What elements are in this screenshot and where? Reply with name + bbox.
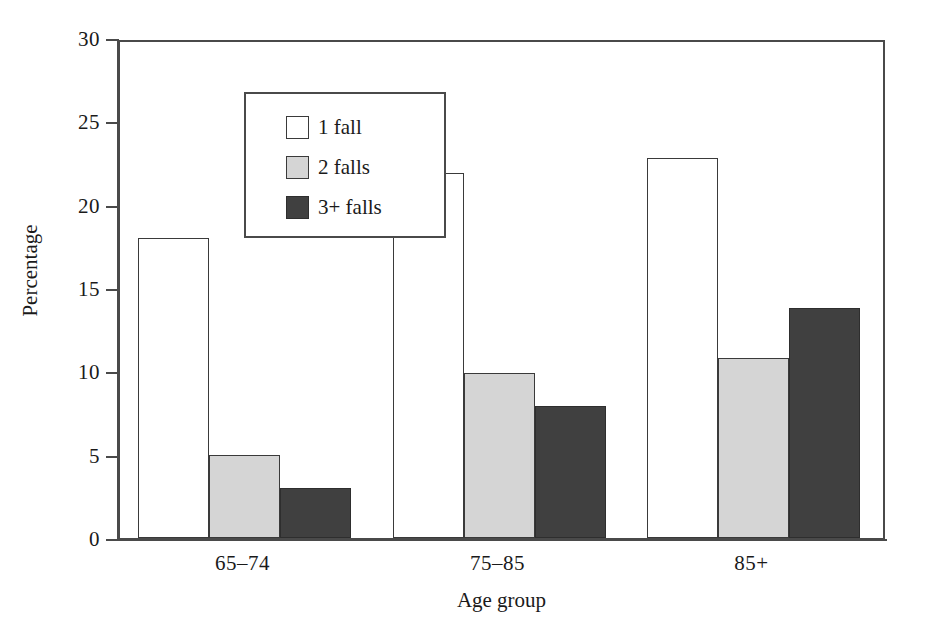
bar-7585-3+falls bbox=[535, 406, 606, 538]
y-axis-tick-label: 10 bbox=[34, 362, 100, 383]
x-axis-label-6574: 65–74 bbox=[163, 551, 323, 576]
legend-swatch-icon-3-plus-falls bbox=[286, 196, 309, 219]
y-axis-tick-label: 0 bbox=[34, 529, 100, 550]
y-axis-line bbox=[117, 39, 119, 541]
legend-item-2-falls: 2 falls bbox=[246, 147, 444, 187]
bars-layer bbox=[120, 42, 883, 538]
y-axis-tick-label: 30 bbox=[34, 29, 100, 50]
legend-item-3-plus-falls: 3+ falls bbox=[246, 187, 444, 227]
y-axis-title: Percentage bbox=[18, 201, 43, 341]
bar-6574-3+falls bbox=[280, 488, 351, 538]
y-axis-tick-label: 5 bbox=[34, 446, 100, 467]
plot-area: 1 fall 2 falls 3+ falls bbox=[118, 40, 885, 540]
legend-item-1-fall: 1 fall bbox=[246, 107, 444, 147]
x-axis-title: Age group bbox=[118, 588, 885, 613]
legend-swatch-icon-2-falls bbox=[286, 156, 309, 179]
legend-label-3-plus-falls: 3+ falls bbox=[318, 197, 382, 218]
bar-85+-1fall bbox=[647, 158, 718, 538]
x-axis-label-85+: 85+ bbox=[672, 551, 832, 576]
bar-85+-3+falls bbox=[789, 308, 860, 538]
bar-6574-2falls bbox=[209, 455, 280, 538]
y-axis-tick-label: 15 bbox=[34, 279, 100, 300]
x-axis-line bbox=[112, 539, 887, 541]
bar-chart-figure: Percentage 051015202530 1 fall 2 falls 3… bbox=[0, 0, 932, 639]
legend-swatch-icon-1-fall bbox=[286, 116, 309, 139]
chart-legend: 1 fall 2 falls 3+ falls bbox=[244, 92, 446, 238]
legend-label-1-fall: 1 fall bbox=[318, 117, 362, 138]
legend-label-2-falls: 2 falls bbox=[318, 157, 370, 178]
bar-6574-1fall bbox=[138, 238, 209, 538]
x-axis-label-7585: 75–85 bbox=[418, 551, 578, 576]
y-axis-tick-label: 25 bbox=[34, 112, 100, 133]
bar-7585-2falls bbox=[464, 373, 535, 538]
bar-85+-2falls bbox=[718, 358, 789, 538]
y-axis-tick-label: 20 bbox=[34, 196, 100, 217]
